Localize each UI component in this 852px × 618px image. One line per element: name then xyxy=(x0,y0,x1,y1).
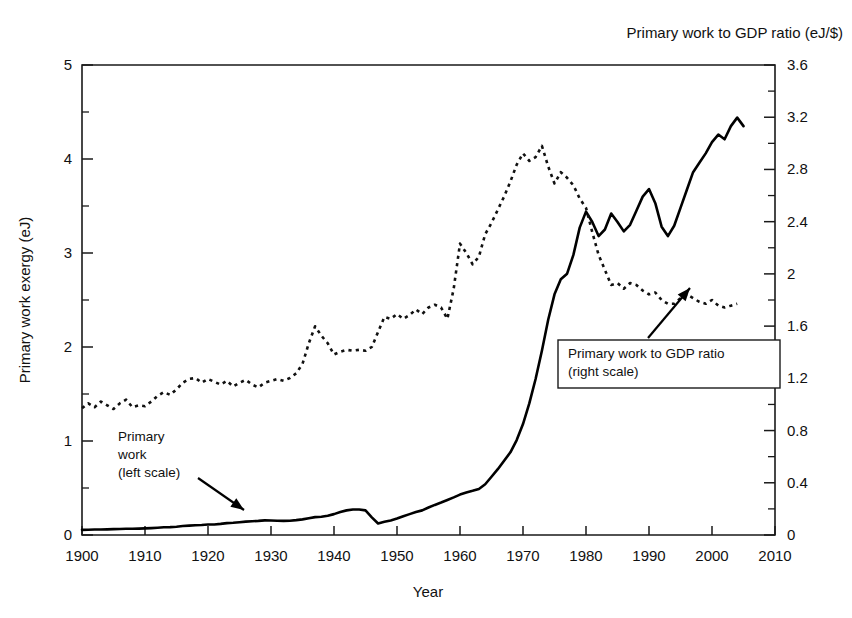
series-layer xyxy=(82,118,744,530)
x-axis-ticks xyxy=(82,526,775,535)
plot-frame xyxy=(82,65,775,535)
y-tick-label-left: 5 xyxy=(64,56,72,73)
right-axis-title: Primary work to GDP ratio (eJ/$) xyxy=(627,24,843,41)
primary-work-annotation-arrowhead xyxy=(230,498,244,510)
x-tick-label: 1990 xyxy=(632,547,665,564)
chart-figure: Primary work to GDP ratio (eJ/$) 1900191… xyxy=(0,0,852,618)
left-axis-tick-labels: 012345 xyxy=(64,56,72,543)
y-tick-label-left: 0 xyxy=(64,526,72,543)
y-tick-label-right: 0.4 xyxy=(787,474,808,491)
x-tick-label: 1950 xyxy=(380,547,413,564)
x-axis-tick-labels: 1900191019201930194019501960197019801990… xyxy=(65,547,791,564)
y-tick-label-right: 1.2 xyxy=(787,369,808,386)
x-tick-label: 1940 xyxy=(317,547,350,564)
gdp-ratio-annotation-line: Primary work to GDP ratio xyxy=(568,346,725,361)
y-tick-label-left: 3 xyxy=(64,244,72,261)
primary-work-annotation-line: (left scale) xyxy=(118,465,180,480)
y-tick-label-right: 3.2 xyxy=(787,108,808,125)
x-tick-label: 1900 xyxy=(65,547,98,564)
gdp-ratio-annotation-line: (right scale) xyxy=(568,364,639,379)
y-tick-label-right: 2.8 xyxy=(787,160,808,177)
x-tick-label: 2010 xyxy=(758,547,791,564)
x-axis-title: Year xyxy=(413,583,443,600)
x-tick-label: 1970 xyxy=(506,547,539,564)
y-tick-label-left: 4 xyxy=(64,150,72,167)
x-tick-label: 1920 xyxy=(191,547,224,564)
x-tick-label: 1980 xyxy=(569,547,602,564)
y-tick-label-right: 2.4 xyxy=(787,213,808,230)
axis-frame xyxy=(82,65,775,535)
annotations-layer: Primarywork(left scale)Primary work to G… xyxy=(117,288,780,510)
primary-work-annotation-line: work xyxy=(117,447,147,462)
x-tick-label: 1930 xyxy=(254,547,287,564)
series-1-solid xyxy=(82,118,744,530)
y-tick-label-right: 1.6 xyxy=(787,317,808,334)
y-tick-label-right: 2 xyxy=(787,265,795,282)
primary-work-annotation-line: Primary xyxy=(118,429,165,444)
left-axis-ticks xyxy=(82,65,93,535)
x-tick-label: 1910 xyxy=(128,547,161,564)
x-tick-label: 2000 xyxy=(695,547,728,564)
y-tick-label-right: 0.8 xyxy=(787,422,808,439)
x-tick-label: 1960 xyxy=(443,547,476,564)
y-tick-label-left: 1 xyxy=(64,432,72,449)
right-axis-tick-labels: 00.40.81.21.622.42.83.23.6 xyxy=(787,56,808,543)
y-axis-title: Primary work exergy (eJ) xyxy=(16,217,33,384)
chart-canvas: Primary work to GDP ratio (eJ/$) 1900191… xyxy=(0,0,852,618)
right-axis-ticks xyxy=(764,65,775,535)
y-tick-label-right: 0 xyxy=(787,526,795,543)
y-tick-label-left: 2 xyxy=(64,338,72,355)
y-tick-label-right: 3.6 xyxy=(787,56,808,73)
